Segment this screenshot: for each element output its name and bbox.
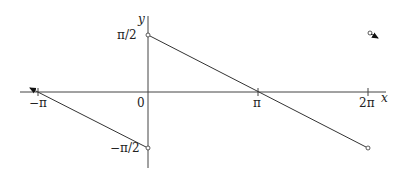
y-tick-label-pi-half: π/2 — [117, 28, 137, 42]
origin-label: 0 — [137, 96, 145, 110]
x-tick-label-2pi: 2π — [359, 96, 375, 110]
x-tick-label-neg-pi: −π — [29, 96, 47, 110]
y-axis-label: y — [137, 12, 145, 26]
y-tick-label-neg-pi-half: −π/2 — [110, 141, 140, 155]
open-point-right — [366, 146, 370, 150]
continuation-arrow — [371, 34, 378, 38]
function-graph: y x 0 π/2 −π/2 −π π 2π — [0, 0, 405, 172]
open-point-bottom — [146, 146, 150, 150]
left-segment — [30, 88, 146, 147]
open-point-top — [146, 33, 150, 37]
x-axis-label: x — [381, 91, 388, 105]
x-tick-label-pi: π — [253, 96, 261, 110]
